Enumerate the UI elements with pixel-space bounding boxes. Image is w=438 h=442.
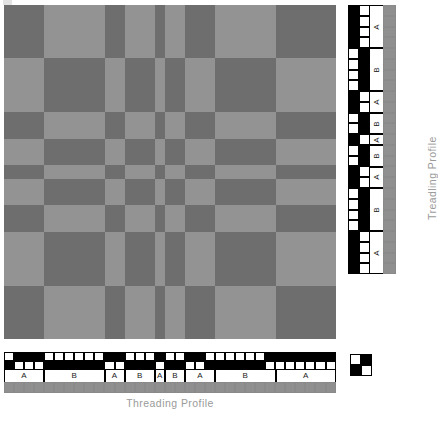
threading-cell[interactable] (326, 352, 336, 361)
threading-color-cell[interactable] (215, 382, 225, 393)
treadling-color-cell[interactable] (383, 145, 396, 156)
treadling-color-cell[interactable] (383, 91, 396, 102)
threading-cell[interactable] (4, 352, 14, 361)
threading-color-cell[interactable] (155, 382, 165, 393)
threading-cell[interactable] (84, 352, 94, 361)
threading-cell[interactable] (245, 352, 255, 361)
treadling-cell[interactable] (348, 80, 359, 91)
treadling-color-cell[interactable] (383, 27, 396, 38)
threading-cell[interactable] (225, 361, 235, 370)
threading-cell[interactable] (265, 361, 275, 370)
treadling-cell[interactable] (359, 134, 370, 145)
threading-shaft-grid[interactable] (4, 352, 336, 370)
treadling-cell[interactable] (359, 123, 370, 134)
treadling-cell[interactable] (348, 123, 359, 134)
threading-cell[interactable] (326, 361, 336, 370)
threading-color-cell[interactable] (285, 382, 295, 393)
treadling-color-cell[interactable] (383, 102, 396, 113)
treadling-color-cell[interactable] (383, 156, 396, 167)
threading-cell[interactable] (305, 352, 315, 361)
treadling-color-cell[interactable] (383, 113, 396, 124)
treadling-cell[interactable] (348, 263, 359, 274)
threading-cell[interactable] (175, 361, 185, 370)
threading-cell[interactable] (24, 352, 34, 361)
threading-color-cell[interactable] (24, 382, 34, 393)
threading-color-cell[interactable] (4, 382, 14, 393)
treadling-cell[interactable] (359, 210, 370, 221)
threading-color-cell[interactable] (64, 382, 74, 393)
tieup-cell[interactable] (361, 354, 372, 365)
threading-cell[interactable] (4, 361, 14, 370)
tieup-cell[interactable] (350, 354, 361, 365)
threading-cell[interactable] (195, 361, 205, 370)
treadling-cell[interactable] (348, 220, 359, 231)
threading-cell[interactable] (145, 352, 155, 361)
treadling-cell[interactable] (348, 70, 359, 81)
treadling-treadle-column[interactable] (359, 5, 370, 274)
treadling-color-cell[interactable] (383, 123, 396, 134)
threading-cell[interactable] (44, 361, 54, 370)
threading-cell[interactable] (125, 361, 135, 370)
threading-color-cell[interactable] (175, 382, 185, 393)
threading-color-cell[interactable] (315, 382, 325, 393)
treadling-color-cell[interactable] (383, 242, 396, 253)
threading-cell[interactable] (255, 361, 265, 370)
threading-cell[interactable] (74, 361, 84, 370)
treadling-color-bar[interactable] (383, 5, 396, 274)
treadling-cell[interactable] (348, 188, 359, 199)
threading-cell[interactable] (34, 361, 44, 370)
treadling-cell[interactable] (359, 113, 370, 124)
tieup-cell[interactable] (361, 365, 372, 376)
threading-cell[interactable] (135, 361, 145, 370)
treadling-cell[interactable] (359, 242, 370, 253)
threading-shaft-row[interactable] (4, 361, 336, 370)
threading-color-cell[interactable] (265, 382, 275, 393)
treadling-cell[interactable] (359, 48, 370, 59)
treadling-cell[interactable] (359, 80, 370, 91)
threading-cell[interactable] (245, 361, 255, 370)
threading-cell[interactable] (115, 361, 125, 370)
threading-color-cell[interactable] (245, 382, 255, 393)
threading-cell[interactable] (34, 352, 44, 361)
threading-cell[interactable] (94, 361, 104, 370)
treadling-treadle-grid[interactable] (348, 5, 370, 274)
threading-color-bar[interactable] (4, 382, 336, 393)
treadling-cell[interactable] (348, 156, 359, 167)
treadling-cell[interactable] (348, 199, 359, 210)
threading-cell[interactable] (205, 361, 215, 370)
treadling-cell[interactable] (348, 91, 359, 102)
treadling-color-cell[interactable] (383, 70, 396, 81)
treadling-cell[interactable] (348, 231, 359, 242)
threading-cell[interactable] (215, 352, 225, 361)
treadling-cell[interactable] (348, 253, 359, 264)
tieup-cell[interactable] (350, 365, 361, 376)
treadling-cell[interactable] (348, 16, 359, 27)
treadling-color-cell[interactable] (383, 188, 396, 199)
treadling-color-cell[interactable] (383, 166, 396, 177)
threading-color-cell[interactable] (195, 382, 205, 393)
threading-cell[interactable] (295, 361, 305, 370)
threading-cell[interactable] (104, 361, 114, 370)
treadling-cell[interactable] (348, 113, 359, 124)
treadling-color-cell[interactable] (383, 59, 396, 70)
treadling-cell[interactable] (348, 242, 359, 253)
threading-cell[interactable] (195, 352, 205, 361)
threading-color-cell[interactable] (34, 382, 44, 393)
threading-cell[interactable] (14, 361, 24, 370)
threading-cell[interactable] (175, 352, 185, 361)
threading-profile[interactable]: ABABABABA (4, 352, 336, 393)
threading-cell[interactable] (125, 352, 135, 361)
treadling-profile[interactable]: ABABABABA (348, 5, 396, 274)
threading-color-cell[interactable] (295, 382, 305, 393)
treadling-color-cell[interactable] (383, 253, 396, 264)
threading-cell[interactable] (275, 361, 285, 370)
threading-color-cell[interactable] (326, 382, 336, 393)
threading-color-cell[interactable] (185, 382, 195, 393)
threading-cell[interactable] (145, 361, 155, 370)
treadling-cell[interactable] (359, 27, 370, 38)
treadling-cell[interactable] (359, 253, 370, 264)
threading-color-cell[interactable] (115, 382, 125, 393)
treadling-cell[interactable] (359, 263, 370, 274)
threading-color-cell[interactable] (135, 382, 145, 393)
treadling-cell[interactable] (359, 220, 370, 231)
